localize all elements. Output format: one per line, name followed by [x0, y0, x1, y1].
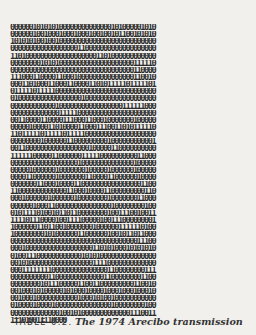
- binary-row: 000000101010100000000000000101000001010: [10, 24, 246, 31]
- binary-row: 111101110000100111100000100111000000001: [10, 217, 246, 224]
- binary-row: 001000100000000000100010100100000000000: [10, 295, 246, 302]
- binary-row: 001000101000001010001000010001000100010: [10, 288, 246, 295]
- binary-row: 010000000000000000010000000000000000000: [10, 95, 246, 102]
- binary-row: 100000011011001000000010000001111110100: [10, 224, 246, 231]
- binary-row: 011111011111000000000000000000000000000: [10, 88, 246, 95]
- binary-row: 000000000000100000000000000000111111000: [10, 103, 246, 110]
- binary-row: 000000000011000000000000011000000001100: [10, 274, 246, 281]
- table-caption: TABLE 6.2. The 1974 Arecibo transmission: [14, 316, 250, 327]
- binary-row: 000000000000011111000000000000000000000: [10, 110, 246, 117]
- binary-row: 010011100000000000010101000000000000000: [10, 253, 246, 260]
- binary-row: 110100000000000000000001101000000000000: [10, 53, 246, 60]
- binary-row: 101010100100100000000000000000000000000: [10, 38, 246, 45]
- binary-row: 000000000000000000110000000000000000000: [10, 45, 246, 52]
- binary-row: 000000100011000000000000000100000000100: [10, 203, 246, 210]
- binary-row: 100000000101000000110000001001011011000: [10, 231, 246, 238]
- binary-row: 000000001000000110000000001000000000001: [10, 138, 246, 145]
- binary-row: 000000000000000000000000000000000011100: [10, 238, 246, 245]
- binary-row: 000000001011100000110011000000000110010: [10, 281, 246, 288]
- binary-row: 110111110111110111110000000000000000000: [10, 131, 246, 138]
- binary-row: 001010000000000000000011110000000000000: [10, 260, 246, 267]
- binary-row: 000100000010000001000000001000000011000: [10, 195, 246, 202]
- binary-row: 000001000000100000001000001000000100000: [10, 167, 246, 174]
- binary-row: 000001000011010000110001110011010111110: [10, 124, 246, 131]
- binary-row: 000000000000000000100000000000000100000: [10, 160, 246, 167]
- binary-row: 000011000000100000001100001100000010000: [10, 174, 246, 181]
- binary-row: 000000011000100001100000000000000001100: [10, 181, 246, 188]
- binary-row: 000000001010100000000000000000000111110: [10, 60, 246, 67]
- binary-row: 000111111110000000000000001100000000111: [10, 267, 246, 274]
- binary-row: 000110100011000110000110101111101111101: [10, 81, 246, 88]
- binary-row: 000000000000000000000000000000000110000: [10, 67, 246, 74]
- table-caption-title: The 1974 Arecibo transmission: [75, 316, 243, 327]
- binary-row: 001100000000000000000100000110000000000: [10, 145, 246, 152]
- binary-row: 010000100001000000000000000100000000100: [10, 302, 246, 309]
- table-caption-label: TABLE 6.2.: [14, 317, 73, 327]
- binary-row: 111000110000110001000000000000000110010: [10, 74, 246, 81]
- binary-row: 001100001100001110001100010000000100000: [10, 117, 246, 124]
- arecibo-binary-table: 0000001010101000000000000001010000010100…: [10, 24, 246, 324]
- binary-row: 111111000001100000011111000000000011000: [10, 153, 246, 160]
- binary-row: 000100000000000000000011010100010101010: [10, 245, 246, 252]
- binary-row: 110000000000000110001000011000000000110: [10, 188, 246, 195]
- binary-row: 000000100100010001000100100101100101010: [10, 31, 246, 38]
- binary-row: 010111101001011011000000001001110010011: [10, 210, 246, 217]
